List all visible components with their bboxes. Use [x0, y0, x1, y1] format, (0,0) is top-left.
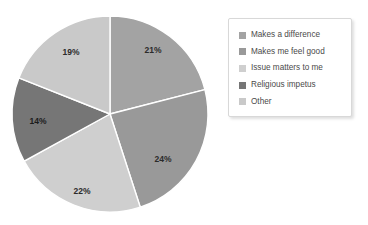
legend-color-swatch-icon: [239, 48, 246, 55]
pie-slice-label: 21%: [144, 45, 161, 55]
pie-svg: 21%24%22%14%19%: [0, 0, 225, 225]
pie-chart: 21%24%22%14%19% Makes a differenceMakes …: [0, 0, 368, 225]
pie-slice-label: 19%: [62, 47, 79, 57]
legend-item-label: Other: [251, 98, 271, 106]
legend-color-swatch-icon: [239, 82, 246, 89]
legend-item[interactable]: Other: [239, 93, 351, 110]
pie-slice-label: 22%: [73, 186, 90, 196]
legend-item-label: Religious impetus: [251, 81, 316, 89]
legend-color-swatch-icon: [239, 32, 246, 39]
legend-color-swatch-icon: [239, 65, 246, 72]
legend-item[interactable]: Makes a difference: [239, 27, 351, 44]
legend-color-swatch-icon: [239, 98, 246, 105]
pie-slice-group: [12, 16, 208, 212]
legend-item-list: Makes a differenceMakes me feel goodIssu…: [239, 27, 351, 110]
pie-plot-area: 21%24%22%14%19%: [0, 0, 225, 225]
legend-item-label: Makes a difference: [251, 31, 320, 39]
pie-slice-label: 14%: [29, 116, 46, 126]
pie-slice-label: 24%: [154, 154, 171, 164]
legend-item-label: Makes me feel good: [251, 48, 325, 56]
legend-item-label: Issue matters to me: [251, 64, 323, 72]
chart-legend: Makes a differenceMakes me feel goodIssu…: [228, 18, 352, 117]
legend-item[interactable]: Makes me feel good: [239, 44, 351, 61]
legend-item[interactable]: Religious impetus: [239, 77, 351, 94]
legend-item[interactable]: Issue matters to me: [239, 60, 351, 77]
